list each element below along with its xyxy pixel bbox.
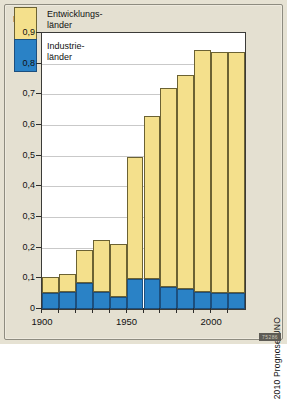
y-axis-tick-label: 0: [30, 303, 35, 313]
bar-segment-developing: [177, 75, 194, 289]
bar-segment-industrial: [160, 287, 177, 309]
y-axis-tick-label: 0,9: [22, 27, 35, 37]
legend-label-developing: Entwicklungs- länder: [47, 9, 103, 30]
bar-segment-industrial: [42, 293, 59, 309]
y-axis-tick-mark: [36, 216, 41, 217]
y-axis-tick-mark: [36, 277, 41, 278]
y-axis-tick-label: 0,6: [22, 119, 35, 129]
y-axis-tick-mark: [36, 155, 41, 156]
y-axis-tick-label: 0,1: [22, 272, 35, 282]
bar-segment-developing: [211, 52, 228, 293]
chart-legend: Entwicklungs- länder Industrie- länder: [14, 7, 189, 77]
source-note: 2010 Prognose UNO: [272, 317, 282, 399]
y-axis-tick-label: 0,4: [22, 180, 35, 190]
y-axis-tick-label: 0,7: [22, 88, 35, 98]
bar-segment-industrial: [76, 283, 93, 309]
x-axis-tick-mark: [75, 308, 76, 313]
y-axis-tick-mark: [36, 124, 41, 125]
bar-segment-industrial: [194, 292, 211, 309]
x-axis-tick-label: 1950: [116, 316, 137, 327]
bar-segment-industrial: [127, 279, 144, 309]
x-axis-tick-mark: [159, 308, 160, 313]
x-axis-tick-mark: [143, 308, 144, 313]
x-axis-tick-mark: [193, 308, 194, 313]
bar-segment-industrial: [177, 289, 194, 309]
bar-segment-industrial: [228, 293, 245, 309]
x-axis-tick-mark: [41, 308, 42, 313]
x-axis-tick-label: 2000: [201, 316, 222, 327]
bar-segment-developing: [110, 244, 127, 297]
y-axis-tick-label: 0,8: [22, 58, 35, 68]
y-axis-tick-mark: [36, 247, 41, 248]
bar-2000: [211, 33, 228, 309]
bar-segment-developing: [42, 277, 59, 294]
x-axis-tick-mark: [109, 308, 110, 313]
x-axis-tick-mark: [227, 308, 228, 313]
bar-segment-developing: [93, 240, 110, 291]
bar-segment-industrial: [93, 292, 110, 309]
y-axis-tick-mark: [36, 93, 41, 94]
bar-segment-developing: [59, 274, 76, 292]
bar-segment-industrial: [59, 292, 76, 309]
y-axis-tick-mark: [36, 185, 41, 186]
legend-label-industrial: Industrie- länder: [47, 41, 85, 62]
bar-2010: [228, 33, 245, 309]
y-axis-tick-mark: [36, 32, 41, 33]
bar-segment-developing: [194, 50, 211, 292]
bar-1990: [194, 33, 211, 309]
bar-segment-developing: [160, 88, 177, 286]
x-axis-tick-mark: [176, 308, 177, 313]
x-axis-tick-mark: [126, 308, 127, 313]
bar-segment-industrial: [110, 297, 127, 309]
y-axis-tick-label: 0,3: [22, 211, 35, 221]
bar-segment-developing: [127, 157, 144, 279]
corner-code: 75286: [259, 333, 281, 341]
x-axis-tick-mark: [58, 308, 59, 313]
x-axis-tick-mark: [210, 308, 211, 313]
bar-segment-industrial: [144, 279, 161, 309]
bar-segment-developing: [76, 250, 93, 283]
y-axis-tick-label: 0,5: [22, 150, 35, 160]
x-axis-tick-mark: [92, 308, 93, 313]
y-axis-tick-mark: [36, 63, 41, 64]
bar-segment-industrial: [211, 293, 228, 309]
bar-segment-developing: [144, 116, 161, 279]
bar-segment-developing: [228, 52, 245, 293]
x-axis-tick-label: 1900: [31, 316, 52, 327]
y-axis-tick-label: 0,2: [22, 242, 35, 252]
